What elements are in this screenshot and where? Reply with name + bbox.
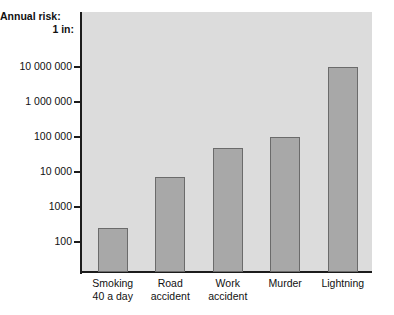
y-axis-tick-label: 100 (0, 236, 72, 247)
y-axis-tick-label: 10 000 (0, 166, 72, 177)
y-axis-tick (74, 101, 82, 103)
y-axis-line (80, 12, 82, 274)
bar (328, 67, 358, 272)
x-axis-category-label: Lightning (308, 277, 378, 290)
y-axis-tick-label: 1 000 000 (0, 96, 72, 107)
y-axis-tick (74, 206, 82, 208)
y-axis-tick-label: 10 000 000 (0, 61, 72, 72)
x-axis-category-label-line: Lightning (308, 277, 378, 290)
bar (213, 148, 243, 272)
bar (270, 137, 300, 272)
bar (98, 228, 128, 272)
y-axis-caption: Annual risk: 1 in: (0, 10, 76, 36)
y-axis-caption-line1: Annual risk: (0, 10, 61, 22)
y-axis-tick (74, 66, 82, 68)
y-axis-tick-label: 1000 (0, 201, 72, 212)
y-axis-tick (74, 241, 82, 243)
y-axis-caption-line2: 1 in: (0, 23, 76, 36)
risk-bar-chart: Annual risk: 1 in: 10 000 0001 000 00010… (0, 0, 394, 315)
x-axis-category-label-line: accident (193, 290, 263, 303)
y-axis-tick (74, 136, 82, 138)
y-axis-tick-label: 100 000 (0, 131, 72, 142)
y-axis-tick (74, 171, 82, 173)
bar (155, 177, 185, 272)
